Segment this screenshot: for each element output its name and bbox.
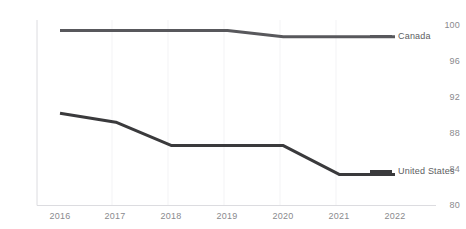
x-tick-label: 2018 [161,212,182,221]
x-tick-label: 2017 [105,212,126,221]
x-tick-label: 2020 [273,212,294,221]
legend-swatch-united-states [370,170,392,173]
legend-swatch-canada [370,35,392,38]
x-tick-label: 2019 [217,212,238,221]
x-tick-label: 2022 [385,212,406,221]
series-line-united-states [60,113,395,174]
series-line-canada [60,30,395,36]
plot-area [0,0,466,229]
x-tick-label: 2016 [50,212,71,221]
category-separators [112,20,336,205]
legend-label-canada: Canada [398,32,431,41]
x-tick-label: 2021 [329,212,350,221]
legend-label-united-states: United States [398,167,455,176]
line-chart: 100 96 92 88 84 80 Canada United States … [0,0,466,229]
